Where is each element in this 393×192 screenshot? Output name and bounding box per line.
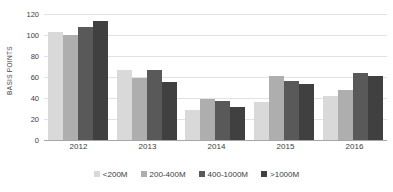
x-axis-tick-labels: 20122013201420152016 [44, 142, 389, 156]
bar[interactable] [353, 73, 368, 140]
bar-group [318, 14, 387, 140]
bar[interactable] [323, 96, 338, 140]
y-axis-tick-label: 60 [31, 73, 39, 82]
legend-label: <200M [103, 170, 128, 179]
y-axis-tick-label: 100 [26, 31, 39, 40]
bar[interactable] [284, 81, 299, 140]
y-axis-tick-label: 0 [35, 136, 39, 145]
x-axis-tick-label: 2014 [182, 142, 251, 156]
legend-swatch-icon [141, 171, 147, 177]
bar-group [113, 14, 182, 140]
bar[interactable] [254, 102, 269, 140]
legend-item[interactable]: >1000M [261, 170, 299, 179]
axis-baseline [44, 140, 387, 141]
bar[interactable] [185, 110, 200, 140]
plot-canvas [44, 14, 387, 140]
bar[interactable] [78, 27, 93, 140]
legend-swatch-icon [261, 171, 267, 177]
bar[interactable] [63, 35, 78, 140]
bar[interactable] [338, 90, 353, 140]
bar-groups [44, 14, 387, 140]
legend: <200M200-400M400-1000M>1000M [0, 166, 393, 182]
legend-swatch-icon [94, 171, 100, 177]
legend-item[interactable]: 200-400M [141, 170, 186, 179]
legend-label: >1000M [270, 170, 299, 179]
bar[interactable] [269, 76, 284, 140]
bar-group [44, 14, 113, 140]
bar[interactable] [299, 84, 314, 140]
bar-group [250, 14, 319, 140]
y-axis-tick-label: 40 [31, 94, 39, 103]
bar[interactable] [132, 78, 147, 140]
bar-group [181, 14, 250, 140]
y-axis-tick-labels: 020406080100120 [16, 14, 42, 140]
x-axis-tick-label: 2013 [113, 142, 182, 156]
bar[interactable] [230, 107, 245, 140]
y-axis-title: BASIS POINTS [2, 0, 16, 140]
bar[interactable] [200, 99, 215, 140]
y-axis-tick-label: 120 [26, 10, 39, 19]
legend-item[interactable]: 400-1000M [199, 170, 248, 179]
x-axis-tick-label: 2015 [251, 142, 320, 156]
bar[interactable] [147, 70, 162, 140]
y-axis-tick-label: 20 [31, 115, 39, 124]
bar[interactable] [117, 70, 132, 140]
bar[interactable] [93, 21, 108, 140]
legend-item[interactable]: <200M [94, 170, 128, 179]
legend-swatch-icon [199, 171, 205, 177]
legend-label: 200-400M [150, 170, 186, 179]
legend-label: 400-1000M [208, 170, 248, 179]
bar[interactable] [162, 82, 177, 140]
x-axis-tick-label: 2012 [44, 142, 113, 156]
plot-area: 020406080100120 [16, 14, 389, 140]
bar[interactable] [368, 76, 383, 140]
bar[interactable] [48, 32, 63, 140]
y-axis-tick-label: 80 [31, 52, 39, 61]
y-axis-title-label: BASIS POINTS [6, 46, 13, 95]
bar-chart: BASIS POINTS 020406080100120 20122013201… [0, 0, 393, 192]
bar[interactable] [215, 101, 230, 140]
x-axis-tick-label: 2016 [320, 142, 389, 156]
